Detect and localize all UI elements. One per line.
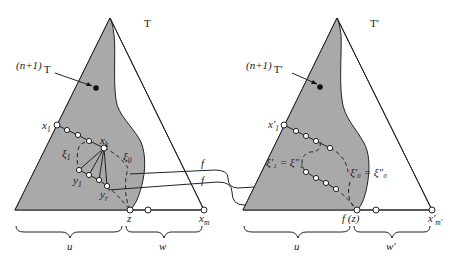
node-x1 — [54, 122, 60, 128]
right-tree-title: T′ — [370, 17, 379, 29]
node — [86, 138, 91, 143]
brace-w-prime — [354, 226, 430, 238]
label-xm-prime: x′m′ — [427, 212, 443, 227]
left-tree: T (n+1)T — [15, 17, 210, 252]
node — [373, 207, 379, 213]
left-subtree-label: (n+1)T — [16, 59, 51, 75]
brace-u — [16, 226, 122, 238]
node — [313, 175, 318, 180]
brace-label-w: w — [159, 240, 167, 252]
node — [96, 177, 101, 182]
mapping-label-f-upper: f — [201, 157, 206, 169]
node — [303, 133, 308, 138]
label-xi0-equation: ξ′₀ = ξ″₀ — [350, 166, 387, 179]
node — [86, 172, 91, 177]
tree-mapping-diagram: T (n+1)T — [0, 0, 460, 259]
node-x1-prime — [281, 122, 287, 128]
node — [145, 207, 151, 213]
left-subtree-root-dot — [93, 85, 99, 91]
right-subtree-label: (n+1)T′ — [246, 59, 283, 75]
node — [323, 180, 328, 185]
node — [303, 169, 308, 174]
brace-u-prime — [244, 226, 350, 238]
node — [333, 186, 338, 191]
node-yr — [104, 183, 109, 188]
node — [293, 128, 298, 133]
brace-label-u: u — [67, 240, 73, 252]
brace-label-w-prime: w′ — [386, 240, 396, 252]
label-xi1-equation: ξ′₁ = ξ″₁ — [266, 156, 303, 169]
brace-w — [126, 226, 202, 238]
right-tree: T′ (n+1)T′ x′1 ξ′₁ = ξ″₁ ξ′ — [243, 17, 443, 252]
right-subtree-root-dot — [317, 84, 323, 90]
label-z: z — [126, 212, 132, 224]
node — [327, 145, 332, 150]
brace-label-u-prime: u — [294, 240, 300, 252]
node — [64, 127, 69, 132]
node — [75, 132, 80, 137]
label-xm: xm — [198, 212, 210, 227]
label-x1-prime: x′1 — [267, 118, 279, 133]
node-y1 — [76, 167, 81, 172]
left-tree-title: T — [144, 17, 151, 29]
right-shaded-subtree — [243, 18, 369, 210]
mapping-label-f-lower: f — [201, 174, 206, 186]
label-fz: f (z) — [342, 212, 360, 225]
label-x1: x1 — [41, 119, 51, 134]
node — [313, 138, 318, 143]
